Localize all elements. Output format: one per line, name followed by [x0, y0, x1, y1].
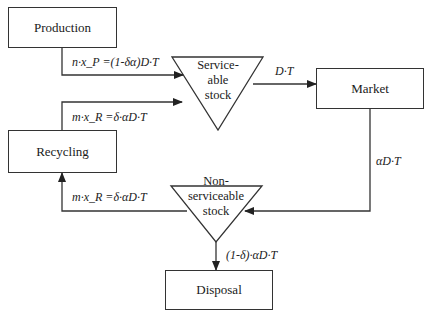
- disposal-box: Disposal: [165, 270, 273, 310]
- recycling-box: Recycling: [8, 130, 117, 173]
- market-box: Market: [316, 68, 424, 109]
- flow-label-to-recycling: m·x_R =δ·αD·T: [72, 190, 147, 205]
- flow-label-market-return: αD·T: [376, 154, 401, 169]
- recycling-label: Recycling: [36, 144, 89, 160]
- nonserviceable-stock-label: Non- serviceable stock: [176, 174, 256, 219]
- arrow-market-to-nonserviceable: [245, 109, 370, 211]
- serviceable-stock-label: Service- able stock: [183, 58, 253, 103]
- market-label: Market: [351, 81, 389, 97]
- disposal-label: Disposal: [196, 282, 242, 298]
- production-label: Production: [34, 20, 91, 36]
- production-box: Production: [8, 7, 117, 48]
- flow-label-to-disposal: (1-δ)·αD·T: [226, 248, 277, 263]
- flow-label-production: n·x_P =(1-δα)D·T: [72, 55, 159, 70]
- flow-label-to-market: D·T: [275, 64, 293, 79]
- flow-label-recycling-to-serviceable: m·x_R =δ·αD·T: [72, 110, 147, 125]
